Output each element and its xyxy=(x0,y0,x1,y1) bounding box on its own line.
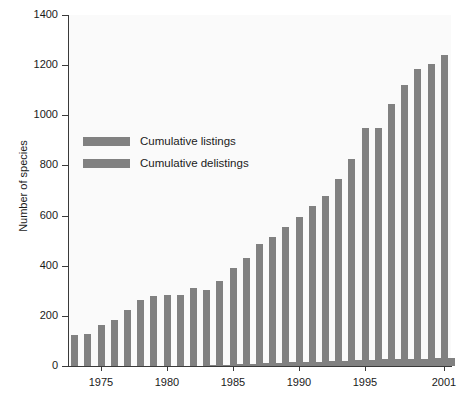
x-axis-tick xyxy=(101,366,102,371)
y-axis-tick-label: 1200 xyxy=(14,59,58,70)
bar-cumulative-listings xyxy=(441,55,448,366)
bar-cumulative-delistings xyxy=(263,363,270,366)
bar-cumulative-delistings xyxy=(276,363,283,366)
legend-label: Cumulative listings xyxy=(140,135,236,147)
bar-cumulative-delistings xyxy=(369,360,376,366)
bar-cumulative-delistings xyxy=(448,358,455,366)
bar-cumulative-listings xyxy=(98,325,105,366)
y-axis-tick-label: 0 xyxy=(14,360,58,371)
x-axis-tick xyxy=(299,366,300,371)
y-axis-line xyxy=(68,15,69,367)
x-axis-line xyxy=(68,366,452,367)
y-axis-tick xyxy=(62,65,68,66)
bar-cumulative-delistings xyxy=(210,365,217,366)
bar-cumulative-listings xyxy=(414,69,421,366)
x-axis-tick-label: 1985 xyxy=(213,376,253,388)
bar-cumulative-delistings xyxy=(382,359,389,366)
bar-cumulative-listings xyxy=(84,334,91,366)
bar-cumulative-listings xyxy=(322,196,329,366)
bar-chart: 0200400600800100012001400 19751980198519… xyxy=(0,0,461,412)
y-axis-tick xyxy=(62,366,68,367)
y-axis-tick xyxy=(62,216,68,217)
bar-cumulative-delistings xyxy=(329,361,336,366)
y-axis-tick xyxy=(62,115,68,116)
bar-cumulative-delistings xyxy=(408,359,415,366)
bar-cumulative-listings xyxy=(164,295,171,366)
legend-swatch-icon xyxy=(83,159,130,168)
x-axis-tick xyxy=(365,366,366,371)
legend-swatch-icon xyxy=(83,137,130,146)
x-axis-tick-label: 1995 xyxy=(345,376,385,388)
y-axis-tick xyxy=(62,316,68,317)
bar-cumulative-listings xyxy=(348,159,355,366)
bar-cumulative-listings xyxy=(190,288,197,366)
y-axis-tick-label: 400 xyxy=(14,260,58,271)
bar-cumulative-delistings xyxy=(316,362,323,366)
bar-cumulative-listings xyxy=(269,237,276,366)
bar-cumulative-delistings xyxy=(395,359,402,366)
bar-cumulative-listings xyxy=(111,320,118,366)
legend-item-cumulative-delistings: Cumulative delistings xyxy=(83,157,249,169)
y-axis-tick-label: 1400 xyxy=(14,9,58,20)
bar-cumulative-delistings xyxy=(289,362,296,366)
legend-item-cumulative-listings: Cumulative listings xyxy=(83,135,249,147)
bar-cumulative-listings xyxy=(243,258,250,366)
bar-cumulative-listings xyxy=(375,128,382,366)
bar-cumulative-listings xyxy=(362,128,369,366)
x-axis-tick xyxy=(444,366,445,371)
bar-cumulative-delistings xyxy=(355,360,362,366)
bar-cumulative-listings xyxy=(137,300,144,366)
x-axis-tick-label: 2001 xyxy=(424,376,461,388)
y-axis-label: Number of species xyxy=(17,116,29,256)
y-axis-tick xyxy=(62,266,68,267)
x-axis-tick xyxy=(233,366,234,371)
bar-cumulative-listings xyxy=(282,227,289,366)
bar-cumulative-listings xyxy=(428,64,435,366)
bar-cumulative-delistings xyxy=(237,364,244,366)
bar-cumulative-delistings xyxy=(223,365,230,366)
bar-cumulative-listings xyxy=(256,244,263,366)
bar-cumulative-listings xyxy=(124,310,131,366)
bar-cumulative-listings xyxy=(230,268,237,366)
bar-cumulative-listings xyxy=(388,104,395,366)
bar-cumulative-listings xyxy=(309,206,316,366)
y-axis-tick xyxy=(62,15,68,16)
bar-cumulative-listings xyxy=(203,290,210,366)
x-axis-tick-label: 1980 xyxy=(147,376,187,388)
bar-cumulative-delistings xyxy=(435,358,442,366)
bar-cumulative-listings xyxy=(401,85,408,366)
x-axis-tick-label: 1990 xyxy=(279,376,319,388)
bar-cumulative-delistings xyxy=(421,359,428,366)
x-axis-tick xyxy=(167,366,168,371)
bar-cumulative-listings xyxy=(216,281,223,366)
bar-cumulative-listings xyxy=(335,179,342,366)
bar-cumulative-delistings xyxy=(342,361,349,366)
bar-cumulative-listings xyxy=(177,295,184,366)
bar-cumulative-delistings xyxy=(303,362,310,366)
chart-legend: Cumulative listings Cumulative delisting… xyxy=(83,135,249,179)
legend-label: Cumulative delistings xyxy=(140,157,249,169)
bar-cumulative-delistings xyxy=(250,364,257,366)
bar-cumulative-listings xyxy=(71,335,78,366)
bar-cumulative-listings xyxy=(150,296,157,366)
x-axis-tick-label: 1975 xyxy=(81,376,121,388)
bar-cumulative-listings xyxy=(296,217,303,366)
y-axis-tick xyxy=(62,165,68,166)
y-axis-tick-label: 200 xyxy=(14,310,58,321)
